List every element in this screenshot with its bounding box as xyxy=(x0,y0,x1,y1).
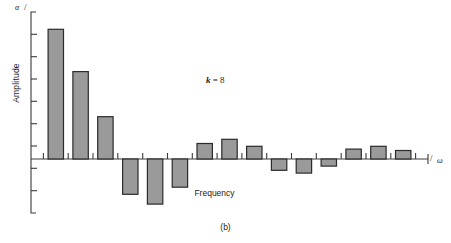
annotation-value: 8 xyxy=(220,75,225,85)
bar xyxy=(271,159,286,170)
bar xyxy=(222,139,237,159)
annotation-equals: = xyxy=(211,75,221,85)
chart-annotation: k = 8 xyxy=(206,75,225,85)
bar-chart-plot xyxy=(0,0,451,243)
y-axis-label: Amplitude xyxy=(11,43,21,123)
bar xyxy=(296,159,311,173)
y-axis-symbol-alpha: α xyxy=(15,3,19,12)
bar xyxy=(197,144,212,160)
x-axis-label-text: Frequency xyxy=(194,188,234,198)
bar xyxy=(247,146,262,159)
bar xyxy=(346,149,361,159)
figure-panel: α / Amplitude k = 8 / ω Frequency (b) xyxy=(0,0,451,243)
bar xyxy=(98,117,113,159)
x-axis-label: Frequency xyxy=(0,188,451,198)
bar xyxy=(371,146,386,159)
x-axis-slash: / xyxy=(430,153,433,163)
bar xyxy=(172,159,187,187)
figure-caption-text: (b) xyxy=(220,222,230,232)
figure-caption: (b) xyxy=(0,222,451,232)
bar xyxy=(396,151,411,160)
y-axis-slash: / xyxy=(24,2,27,12)
bar xyxy=(321,159,336,166)
bar xyxy=(48,29,63,159)
x-axis-symbol-omega: ω xyxy=(437,156,443,165)
bar xyxy=(73,72,88,159)
